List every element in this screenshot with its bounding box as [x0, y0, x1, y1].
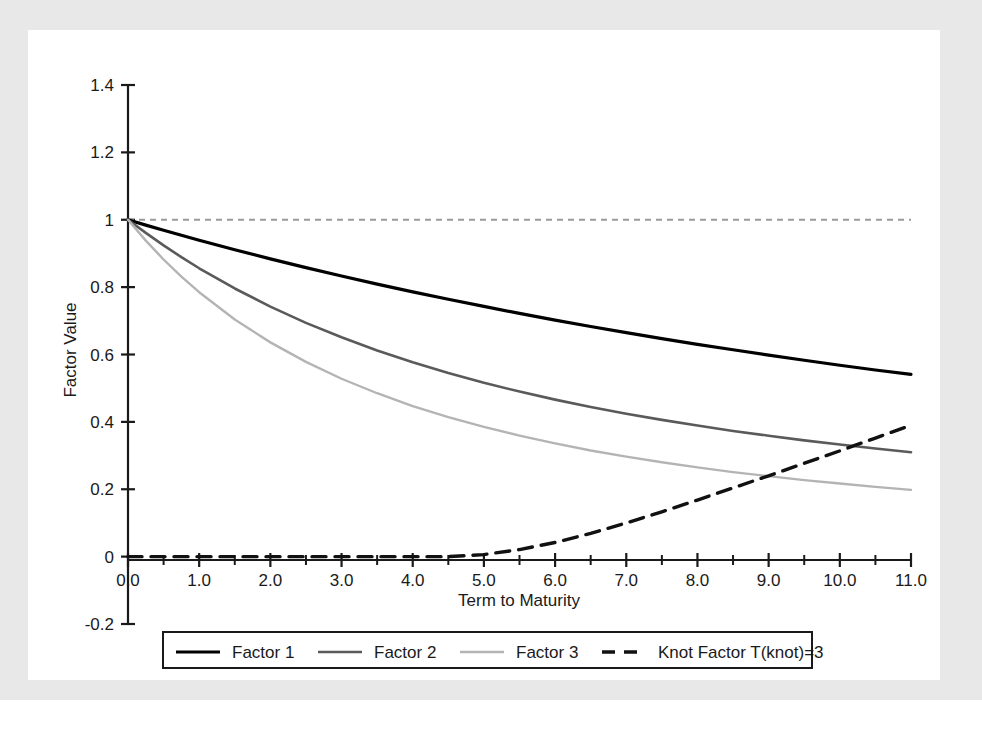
legend-label-4: Knot Factor T(knot)=3	[658, 643, 824, 662]
factor-loading-chart: 1.41.210.80.60.40.20-0.2 0.01.02.03.04.0…	[0, 0, 982, 734]
y-tick-label: -0.2	[85, 615, 114, 634]
x-axis-title: Term to Maturity	[458, 591, 580, 610]
scanned-page: 1.41.210.80.60.40.20-0.2 0.01.02.03.04.0…	[0, 0, 982, 734]
x-tick-label: 7.0	[614, 571, 638, 590]
y-tick-label: 1.4	[90, 76, 114, 95]
series-line-2	[128, 220, 911, 452]
legend-label-1: Factor 1	[232, 643, 294, 662]
x-tick-label: 1.0	[187, 571, 211, 590]
legend-label-3: Factor 3	[516, 643, 578, 662]
series-line-3	[128, 220, 911, 490]
series-line-4	[128, 425, 911, 556]
y-axis-title: Factor Value	[61, 302, 80, 397]
x-tick-label: 5.0	[472, 571, 496, 590]
chart-container: 1.41.210.80.60.40.20-0.2 0.01.02.03.04.0…	[0, 0, 982, 734]
x-tick-label: 4.0	[401, 571, 425, 590]
x-axis-tick-labels: 0.01.02.03.04.05.06.07.08.09.010.011.0	[116, 571, 927, 590]
y-tick-label: 0.4	[90, 413, 114, 432]
x-tick-label: 11.0	[895, 571, 927, 590]
x-tick-label: 9.0	[757, 571, 781, 590]
legend-label-2: Factor 2	[374, 643, 436, 662]
y-tick-label: 0.8	[90, 278, 114, 297]
x-tick-label: 2.0	[259, 571, 283, 590]
x-tick-label: 0.0	[116, 571, 140, 590]
x-tick-label: 10.0	[823, 571, 856, 590]
series-line-1	[128, 220, 911, 375]
x-tick-label: 6.0	[543, 571, 567, 590]
data-series-group	[128, 220, 911, 557]
x-tick-label: 8.0	[686, 571, 710, 590]
y-axis-tick-labels: 1.41.210.80.60.40.20-0.2	[85, 76, 114, 634]
y-tick-label: 1	[105, 211, 114, 230]
y-tick-label: 0.6	[90, 346, 114, 365]
x-tick-label: 3.0	[330, 571, 354, 590]
y-tick-label: 0	[105, 548, 114, 567]
y-tick-label: 1.2	[90, 143, 114, 162]
y-tick-label: 0.2	[90, 480, 114, 499]
